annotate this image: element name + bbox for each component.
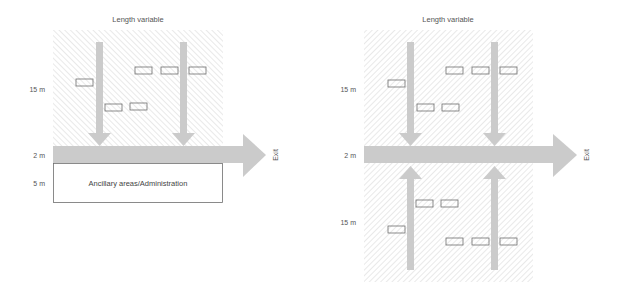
rack-box [500,67,517,74]
rack-box [441,200,458,207]
length-variable-label: Length variable [112,15,163,24]
rack-box [472,67,489,74]
storage-area [53,30,223,146]
rack-box [500,238,517,245]
right-diagram: Length variable 15 m 2 m 15 m [340,15,590,282]
warehouse-layout-diagram: Length variable 15 m 2 m 5 m Exit [0,0,617,292]
upper-storage-depth-label: 15 m [340,86,356,93]
rack-box [446,238,463,245]
rack-box [446,67,463,74]
rack-box [161,67,178,74]
storage-depth-label: 15 m [29,86,45,93]
rack-box [442,104,459,111]
rack-box [105,104,122,111]
lower-storage-area [364,163,533,282]
rack-box [417,104,434,111]
exit-label: Exit [583,149,590,161]
aisle-width-label: 2 m [33,152,45,159]
lower-storage-depth-label: 15 m [340,219,356,226]
exit-label: Exit [272,149,279,161]
rack-box [472,238,489,245]
ancillary-areas-label: Ancillary areas/Administration [89,179,188,188]
rack-box [388,80,405,87]
rack-box [135,67,152,74]
rack-box [416,200,433,207]
rack-box [388,226,405,233]
left-diagram: Length variable 15 m 2 m 5 m Exit [29,15,279,203]
length-variable-label: Length variable [422,15,473,24]
ancillary-depth-label: 5 m [33,180,45,187]
rack-box [76,79,93,86]
rack-box [189,67,206,74]
upper-storage-area [364,30,533,146]
rack-box [130,103,147,110]
aisle-width-label: 2 m [344,152,356,159]
